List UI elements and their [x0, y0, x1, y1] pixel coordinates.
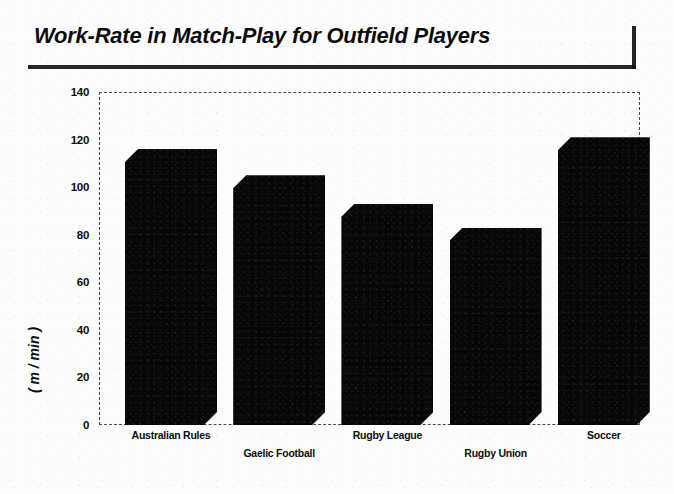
x-axis-tick-label: Gaelic Football [243, 447, 315, 459]
y-tick-label: 20 [77, 371, 89, 383]
x-axis-tick-label: Rugby League [353, 429, 422, 441]
bar [558, 137, 650, 425]
x-axis-tick-label: Rugby Union [464, 447, 527, 459]
y-tick-label: 40 [77, 324, 89, 336]
y-tick-label: 60 [77, 276, 89, 288]
title-underline-rule [28, 65, 636, 69]
bar [450, 228, 542, 425]
page-title: Work-Rate in Match-Play for Outfield Pla… [34, 24, 490, 49]
y-tick-label: 140 [71, 86, 89, 98]
y-axis-title-label: ( m / min ) [26, 327, 42, 393]
x-axis-tick-label: Soccer [587, 429, 621, 441]
bar [233, 175, 325, 425]
x-axis-labels: Australian RulesGaelic FootballRugby Lea… [0, 425, 674, 494]
title-bracket-rule [632, 26, 636, 69]
plot-area [99, 92, 640, 425]
title-block: Work-Rate in Match-Play for Outfield Pla… [28, 24, 640, 80]
bar [341, 204, 433, 425]
y-axis-title: ( m / min ) [14, 290, 54, 430]
scanned-page: Work-Rate in Match-Play for Outfield Pla… [0, 0, 674, 494]
y-tick-label: 120 [71, 134, 89, 146]
bar [125, 149, 217, 425]
y-axis: ( m / min ) 020406080100120140 [0, 92, 99, 425]
y-tick-label: 80 [77, 229, 89, 241]
y-tick-label: 100 [71, 181, 89, 193]
x-axis-tick-label: Australian Rules [132, 429, 211, 441]
